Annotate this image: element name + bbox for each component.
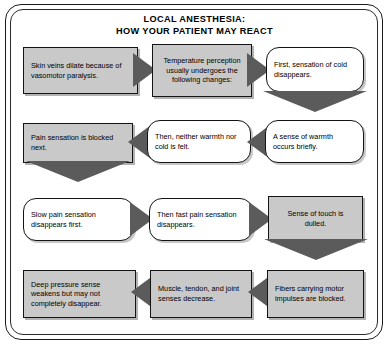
flow-node-sense-of-warmth[interactable]: A sense of warmth occurs briefly. — [265, 120, 364, 163]
flow-node-neither-warmth-nor-cold[interactable]: Then, neither warmth nor cold is felt. — [147, 120, 251, 163]
flow-node-temperature-perception[interactable]: Temperature perception usually undergoes… — [152, 44, 252, 97]
flow-node-fast-pain-disappears[interactable]: Then fast pain sensation disappears. — [149, 198, 253, 241]
flow-node-text: A sense of warmth occurs briefly. — [266, 132, 363, 151]
flow-node-sense-of-touch-dulled[interactable]: Sense of touch is dulled. — [268, 196, 363, 241]
arrow-down-icon-r2-r3 — [26, 161, 130, 182]
title-line-2: HOW YOUR PATIENT MAY REACT — [0, 26, 389, 38]
flow-node-skin-veins-dilate[interactable]: Skin veins dilate because of vasomotor p… — [23, 47, 138, 94]
flow-node-text: Then, neither warmth nor cold is felt. — [148, 132, 250, 151]
flow-node-text: Fibers carrying motor impulses are block… — [268, 284, 363, 303]
arrow-down-icon-r1-r2 — [263, 91, 367, 112]
flow-node-text: First, sensation of cold disappears. — [267, 60, 363, 79]
flow-node-text: Pain sensation is blocked next. — [24, 133, 132, 152]
flow-node-motor-fibers-blocked[interactable]: Fibers carrying motor impulses are block… — [267, 270, 364, 318]
flow-node-text: Deep pressure sense weakens but may not … — [24, 280, 135, 309]
flow-node-text: Then fast pain sensation disappears. — [150, 210, 252, 229]
flow-node-pain-sensation-blocked[interactable]: Pain sensation is blocked next. — [23, 123, 133, 163]
flow-node-cold-disappears[interactable]: First, sensation of cold disappears. — [266, 47, 364, 92]
flow-node-text: Slow pain sensation disappears first. — [24, 210, 133, 229]
arrow-down-icon-r3-r4 — [264, 239, 368, 260]
flow-node-deep-pressure-sense[interactable]: Deep pressure sense weakens but may not … — [23, 270, 136, 318]
diagram-title: LOCAL ANESTHESIA: HOW YOUR PATIENT MAY R… — [0, 14, 389, 37]
flow-node-muscle-tendon-joint[interactable]: Muscle, tendon, and joint senses decreas… — [150, 270, 252, 318]
title-line-1: LOCAL ANESTHESIA: — [0, 14, 389, 26]
flow-node-slow-pain-disappears[interactable]: Slow pain sensation disappears first. — [23, 198, 134, 241]
flow-node-text: Sense of touch is dulled. — [269, 209, 362, 228]
flow-node-text: Skin veins dilate because of vasomotor p… — [24, 61, 137, 80]
flow-node-text: Temperature perception usually undergoes… — [153, 56, 251, 85]
diagram-canvas: LOCAL ANESTHESIA: HOW YOUR PATIENT MAY R… — [0, 0, 389, 346]
flow-node-text: Muscle, tendon, and joint senses decreas… — [151, 284, 251, 303]
